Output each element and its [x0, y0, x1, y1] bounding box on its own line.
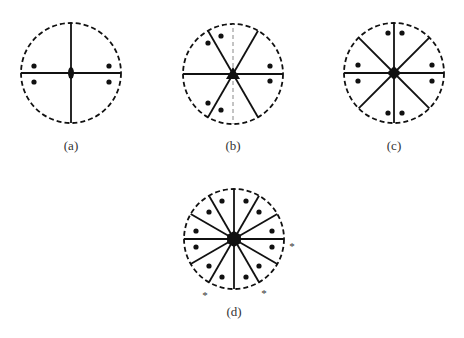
dot-marker [31, 79, 36, 84]
dot-marker [399, 110, 404, 115]
star-mark: * [289, 240, 295, 252]
dot-marker [355, 62, 360, 67]
mirror-line [233, 74, 258, 117]
dot-marker [106, 79, 111, 84]
dot-marker [219, 274, 224, 279]
dot-marker [218, 33, 223, 38]
dot-marker [429, 62, 434, 67]
symmetry-diagrams [0, 0, 464, 338]
dot-marker [193, 228, 198, 233]
dot-marker [243, 198, 248, 203]
dot-marker [106, 63, 111, 68]
mirror-line [394, 38, 429, 73]
mirror-line [359, 38, 394, 73]
dot-marker [399, 30, 404, 35]
dot-marker [256, 209, 261, 214]
dot-marker [243, 274, 248, 279]
dot-marker [267, 78, 272, 83]
dot-marker [219, 198, 224, 203]
star-mark: * [202, 289, 208, 301]
panel-label-a: (a) [64, 138, 78, 154]
dot-marker [385, 110, 390, 115]
dot-marker [267, 63, 272, 68]
mirror-line [359, 73, 394, 108]
panel-label-c: (c) [387, 138, 401, 154]
dot-marker [206, 263, 211, 268]
dot-marker [385, 30, 390, 35]
mirror-line [233, 31, 258, 74]
dot-marker [269, 244, 274, 249]
dot-marker [269, 228, 274, 233]
twofold-axis-icon [68, 67, 74, 79]
dot-marker [31, 63, 36, 68]
dot-marker [355, 78, 360, 83]
dot-marker [218, 107, 223, 112]
star-mark: * [261, 287, 267, 299]
dot-marker [429, 78, 434, 83]
threefold-axis-icon [226, 67, 240, 79]
dot-marker [205, 100, 210, 105]
dot-marker [206, 209, 211, 214]
panel-label-b: (b) [225, 138, 240, 154]
dot-marker [205, 40, 210, 45]
sixfold-axis-icon [227, 231, 241, 247]
panel-label-d: (d) [226, 304, 241, 320]
dot-marker [256, 263, 261, 268]
mirror-line [394, 73, 429, 108]
dot-marker [193, 244, 198, 249]
